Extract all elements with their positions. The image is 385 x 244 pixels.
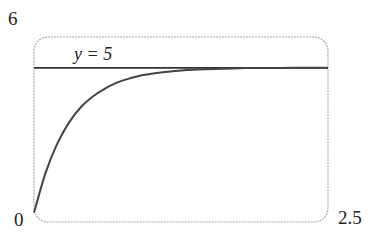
curve-line <box>34 68 328 213</box>
x-max-label: 2.5 <box>338 207 362 229</box>
y-max-label: 6 <box>8 8 18 30</box>
origin-label: 0 <box>14 209 24 231</box>
asymptote-label-text: y = 5 <box>74 44 112 64</box>
chart-canvas <box>0 0 385 244</box>
asymptote-label: y = 5 <box>74 44 112 65</box>
